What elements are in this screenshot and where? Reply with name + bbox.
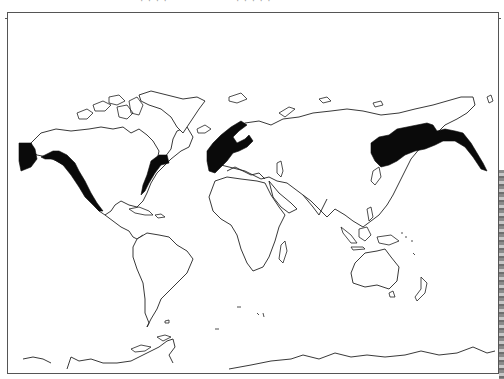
africa bbox=[209, 177, 285, 271]
north-america bbox=[31, 127, 193, 215]
hispaniola-island bbox=[155, 214, 165, 218]
new-guinea bbox=[377, 235, 399, 245]
arctic-islands-3 bbox=[109, 95, 125, 105]
caption-fragment-right: · · · · · bbox=[236, 0, 272, 6]
world-map bbox=[8, 13, 500, 375]
new-zealand bbox=[415, 277, 427, 301]
madagascar bbox=[279, 241, 287, 263]
antarctica-east bbox=[229, 347, 495, 369]
australia bbox=[351, 249, 399, 289]
tasmania bbox=[389, 291, 395, 297]
cuba-island bbox=[129, 207, 153, 215]
java bbox=[351, 247, 365, 250]
south-america bbox=[133, 233, 193, 327]
new-siberian-islands bbox=[373, 101, 383, 107]
antarctica-west bbox=[23, 357, 51, 363]
cropped-caption-text: · · · · · · · · · bbox=[0, 0, 504, 5]
antarctica-peninsula bbox=[67, 339, 175, 369]
novaya-zemlya bbox=[279, 107, 295, 117]
south-atlantic-islands bbox=[215, 307, 264, 329]
sumatra bbox=[341, 227, 357, 243]
svalbard bbox=[229, 93, 247, 103]
iceland bbox=[197, 125, 211, 133]
severnaya-zemlya bbox=[319, 97, 331, 103]
wrangel-island bbox=[487, 95, 493, 103]
pacific-islands bbox=[401, 233, 415, 255]
caption-fragment-left: · · · · bbox=[140, 0, 168, 6]
falklands bbox=[165, 320, 169, 323]
central-america bbox=[105, 215, 143, 239]
antarctic-islands bbox=[131, 335, 171, 352]
greenland bbox=[139, 91, 205, 133]
scan-edge-shadow bbox=[499, 170, 504, 379]
arctic-islands-1 bbox=[77, 109, 93, 119]
map-frame bbox=[7, 12, 499, 374]
arctic-islands-2 bbox=[93, 101, 111, 111]
borneo bbox=[359, 227, 371, 241]
